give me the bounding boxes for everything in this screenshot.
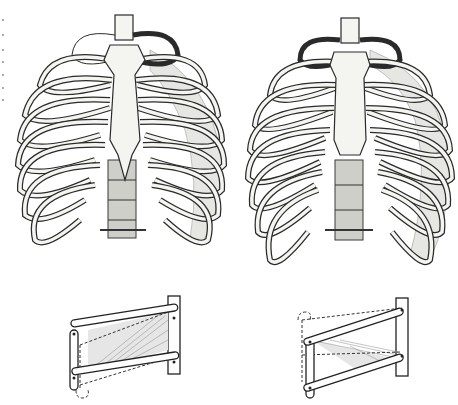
ribs-left-side xyxy=(18,34,115,243)
movable-post xyxy=(70,330,78,390)
lever-model-right-drawing xyxy=(290,290,420,400)
ribcage-right-drawing xyxy=(230,0,458,280)
ribcage-left xyxy=(0,0,230,270)
lever-model-left xyxy=(60,290,190,400)
hatched-muscle-area xyxy=(312,340,400,372)
vertebral-column-lower xyxy=(108,160,136,238)
lever-model-left-drawing xyxy=(60,290,190,400)
ribs-left-side xyxy=(248,39,340,262)
lever-model-right xyxy=(290,290,420,400)
vertebra-top xyxy=(341,18,359,43)
upper-bar xyxy=(303,307,404,346)
sternum xyxy=(330,52,370,155)
ribcage-right xyxy=(230,0,458,280)
vertebral-column-lower xyxy=(335,160,363,240)
ribcage-left-drawing xyxy=(0,0,230,270)
edge-marks xyxy=(2,20,4,100)
vertebra-top xyxy=(115,15,133,40)
